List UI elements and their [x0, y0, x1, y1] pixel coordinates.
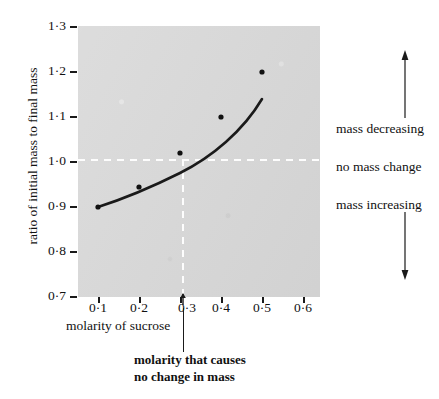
- data-curve-and-points: [78, 26, 320, 297]
- y-tick-0-9: [70, 206, 77, 208]
- annotation-no-mass-change: no mass change: [336, 159, 421, 175]
- x-tick-label-0-1: 0·1: [78, 300, 118, 316]
- data-point: [177, 150, 182, 155]
- y-tick-1-2: [70, 71, 77, 73]
- caption-line-2: no change in mass: [134, 369, 246, 386]
- y-tick-label-0-7: 0·7: [0, 288, 66, 304]
- caption-leader-line: [183, 308, 184, 352]
- right-annotation-group: mass decreasing no mass change mass incr…: [336, 40, 439, 290]
- caption-line-1: molarity that causes: [134, 352, 246, 369]
- x-axis-title: molarity of sucrose: [66, 318, 170, 334]
- y-tick-0-8: [70, 251, 77, 253]
- data-point: [259, 69, 264, 74]
- x-tick-label-0-5: 0·5: [242, 300, 282, 316]
- y-tick-label-1-3: 1·3: [0, 18, 66, 34]
- y-tick-1-1: [70, 116, 77, 118]
- data-point: [95, 204, 100, 209]
- plot-area: [78, 26, 320, 297]
- figure-root: 1·3 1·2 1·1 1·0 0·9 0·8 0·7 ratio of ini…: [0, 0, 439, 399]
- annotation-mass-increasing: mass increasing: [336, 197, 422, 213]
- data-point: [218, 114, 223, 119]
- caption-isotonic-molarity: molarity that causes no change in mass: [134, 352, 246, 385]
- annotation-mass-decreasing: mass decreasing: [336, 121, 424, 137]
- y-axis-title: ratio of initial mass to final mass: [25, 41, 41, 271]
- isotonic-molarity-up-arrow-icon: [176, 292, 190, 306]
- x-tick-label-0-2: 0·2: [119, 300, 159, 316]
- x-tick-label-0-4: 0·4: [201, 300, 241, 316]
- y-tick-1-3: [70, 26, 77, 28]
- y-tick-1-0: [70, 161, 77, 163]
- y-tick-0-7: [70, 296, 77, 298]
- data-point: [136, 184, 141, 189]
- x-tick-label-0-6: 0·6: [283, 300, 323, 316]
